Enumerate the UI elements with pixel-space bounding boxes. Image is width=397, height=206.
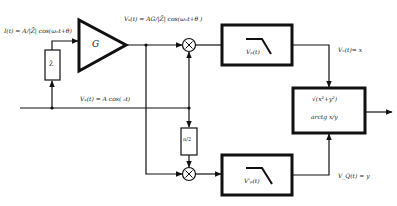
lpf-bottom-label: V'ₚ(t) bbox=[244, 178, 259, 184]
amp-output-label: Vₛ(t) = AG/|Z̄| cos(ωₒt+θ ) bbox=[124, 16, 202, 22]
wire-y-to-output bbox=[292, 134, 329, 175]
reference-signal-label: Vₑ(t) = A cos( ₒt) bbox=[80, 96, 130, 102]
output-phase-label: arctg x/y bbox=[311, 114, 338, 120]
lowpass-filter-top bbox=[222, 25, 292, 65]
wire-amp-to-mixer2 bbox=[146, 45, 182, 174]
lowpass-filter-bottom bbox=[222, 155, 292, 195]
mixer-top bbox=[183, 39, 196, 52]
quadrature-output-label: V_Q(t) = y bbox=[338, 173, 370, 179]
input-current-label: I(t) = A/|Z̄| cos(ωₒt+θ) bbox=[4, 28, 72, 34]
amplifier-label: G bbox=[92, 40, 99, 49]
mixer-bottom bbox=[183, 168, 196, 181]
wire-x-to-output bbox=[292, 45, 329, 87]
amplifier-triangle bbox=[79, 20, 126, 71]
wire-z-to-amp bbox=[52, 41, 78, 50]
impedance-label: Z̄ bbox=[49, 61, 53, 67]
output-magnitude-label: √(x²+y²) bbox=[312, 96, 337, 102]
in-phase-output-label: Vₒ(t)= x bbox=[338, 47, 362, 53]
lpf-top-label: Vₚ(t) bbox=[246, 49, 260, 55]
phase-shift-label: π/2 bbox=[183, 137, 191, 142]
